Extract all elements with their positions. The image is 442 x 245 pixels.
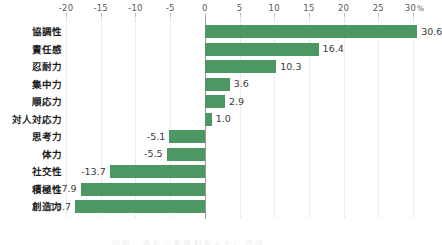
bar-row: 体力-5.5 (66, 148, 413, 161)
x-axis-tick-label-10: 10 (269, 3, 280, 13)
gridline-30 (413, 18, 414, 217)
tick-mark--20 (66, 13, 67, 17)
value-label-9: -17.9 (52, 182, 77, 195)
x-axis-tick-label-20: 20 (338, 3, 349, 13)
value-label-2: 10.3 (280, 60, 301, 73)
x-axis-tick-label-15: 15 (303, 3, 314, 13)
bar-3[interactable] (205, 78, 230, 91)
tick-mark-20 (344, 13, 345, 17)
tick-mark-30 (413, 13, 414, 17)
value-label-8: -13.7 (81, 165, 106, 178)
bar-row: 協調性30.6 (66, 25, 413, 38)
category-label-6: 思考力 (0, 130, 66, 143)
bar-row: 社交性-13.7 (66, 165, 413, 178)
category-label-3: 集中力 (0, 78, 66, 91)
value-label-10: -18.7 (46, 200, 71, 213)
category-label-2: 忍耐力 (0, 60, 66, 73)
tick-mark--15 (101, 13, 102, 17)
bar-row: 責任感16.4 (66, 43, 413, 56)
bar-9[interactable] (81, 183, 205, 196)
bar-row: 思考力-5.1 (66, 130, 413, 143)
percent-sign: % (417, 4, 424, 13)
bar-row: 順応力2.9 (66, 95, 413, 108)
bar-10[interactable] (75, 200, 205, 213)
x-axis-tick-label-30: 30% (405, 3, 425, 13)
tick-mark-10 (274, 13, 275, 17)
value-label-5: 1.0 (216, 112, 231, 125)
x-axis-tick-label--10: -10 (128, 3, 142, 13)
plot-area: -20-15-10-5051015202530%協調性30.6責任感16.4忍耐… (66, 18, 413, 227)
x-axis-tick-label--5: -5 (166, 3, 175, 13)
category-label-7: 体力 (0, 148, 66, 161)
bar-row: 忍耐力10.3 (66, 60, 413, 73)
bar-6[interactable] (169, 130, 204, 143)
footer-strip: 出所：各社公表資料をもとに作成 (0, 236, 419, 245)
category-label-8: 社交性 (0, 165, 66, 178)
tick-mark-15 (309, 13, 310, 17)
bar-7[interactable] (167, 148, 205, 161)
bar-row: 積極性-17.9 (66, 183, 413, 196)
x-axis-tick-label-0: 0 (202, 3, 208, 13)
category-label-4: 順応力 (0, 95, 66, 108)
tick-mark-5 (240, 13, 241, 17)
bar-5[interactable] (205, 113, 212, 126)
bar-8[interactable] (110, 165, 205, 178)
category-label-5: 対人対応力 (0, 113, 66, 126)
bar-row: 対人対応力1.0 (66, 113, 413, 126)
tick-mark-25 (378, 13, 379, 17)
x-axis-tick-label-5: 5 (237, 3, 243, 13)
value-label-7: -5.5 (144, 147, 163, 160)
tick-mark--10 (135, 13, 136, 17)
x-axis-tick-label-25: 25 (373, 3, 384, 13)
x-axis-tick-label--20: -20 (59, 3, 73, 13)
bar-row: 創造力-18.7 (66, 200, 413, 213)
category-label-1: 責任感 (0, 43, 66, 56)
bar-4[interactable] (205, 95, 225, 108)
value-label-1: 16.4 (323, 42, 344, 55)
tick-mark--5 (170, 13, 171, 17)
value-label-4: 2.9 (229, 95, 244, 108)
category-label-0: 協調性 (0, 25, 66, 38)
value-label-0: 30.6 (421, 25, 442, 38)
value-label-3: 3.6 (234, 77, 249, 90)
footer-caption: 出所：各社公表資料をもとに作成 (112, 238, 265, 245)
bar-1[interactable] (205, 43, 319, 56)
bar-row: 集中力3.6 (66, 78, 413, 91)
bar-2[interactable] (205, 60, 276, 73)
x-axis-tick-label--15: -15 (93, 3, 107, 13)
bar-0[interactable] (205, 25, 417, 38)
value-label-6: -5.1 (147, 130, 166, 143)
tick-mark-0 (205, 13, 206, 17)
